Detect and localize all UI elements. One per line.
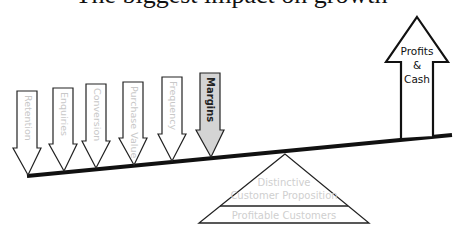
result-label-line-1: Profits	[401, 45, 434, 57]
lever-arrow-frequency: Frequency	[158, 77, 186, 161]
lever-arrow-retention: Retention	[13, 91, 41, 175]
lever-arrow-conversion: Conversion	[82, 84, 110, 168]
fulcrum-label-line-2: Customer Proposition	[230, 190, 337, 201]
lever-arrow-label: Purchase Value	[129, 86, 140, 158]
result-label-line-3: Cash	[404, 73, 430, 85]
result-label-line-2: &	[413, 59, 421, 71]
lever-arrow-label: Enquiries	[59, 92, 70, 136]
lever-arrow-margins: Margins	[196, 73, 224, 157]
lever-arrow-purchase-value: Purchase Value	[119, 82, 147, 165]
profits-cash-arrow: Profits & Cash	[386, 17, 448, 139]
lever-arrow-label: Conversion	[92, 88, 103, 141]
lever-arrow-enquiries: Enquiries	[49, 88, 77, 171]
fulcrum-pyramid: Distinctive Customer Proposition Profita…	[199, 154, 369, 223]
lever-arrow-label: Margins	[205, 77, 216, 122]
fulcrum-label-line-1: Distinctive	[258, 177, 311, 188]
lever-diagram: The biggest impact on growth Distinctive…	[0, 0, 463, 241]
fulcrum-base-label: Profitable Customers	[232, 210, 336, 221]
lever-arrow-label: Retention	[23, 95, 34, 141]
lever-arrow-label: Frequency	[168, 81, 179, 130]
